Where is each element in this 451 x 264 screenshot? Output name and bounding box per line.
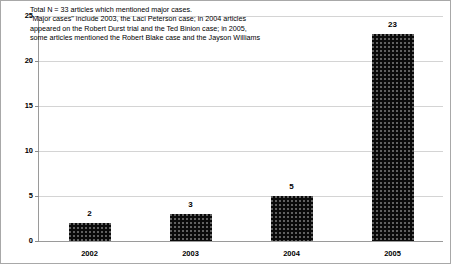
bar-value-label: 2 bbox=[87, 210, 91, 218]
annotation-line: "Major cases" include 2003, the Laci Pet… bbox=[30, 14, 260, 23]
bar[interactable] bbox=[372, 34, 414, 241]
y-axis-tick-label: 5 bbox=[29, 192, 33, 200]
bar[interactable] bbox=[271, 196, 313, 241]
chart-annotation: Total N = 33 articles which mentioned ma… bbox=[30, 5, 260, 43]
bar-value-label: 3 bbox=[188, 201, 192, 209]
bar-slot: 2 bbox=[39, 16, 140, 241]
annotation-line: some articles mentioned the Robert Blake… bbox=[30, 33, 260, 42]
bar-value-label: 5 bbox=[289, 183, 293, 191]
y-axis-tick-label: 20 bbox=[25, 57, 33, 65]
y-axis-tick-mark bbox=[35, 241, 39, 242]
x-axis-tick-label: 2005 bbox=[384, 250, 401, 258]
bar[interactable] bbox=[170, 214, 212, 241]
bar[interactable] bbox=[69, 223, 111, 241]
bar-slot: 23 bbox=[342, 16, 443, 241]
x-axis-tick-label: 2003 bbox=[182, 250, 199, 258]
y-axis-tick-label: 0 bbox=[29, 237, 33, 245]
y-axis-tick-label: 10 bbox=[25, 147, 33, 155]
plot-area: 0510152025 23523 2002200320042005 bbox=[38, 16, 443, 242]
bar-value-label: 23 bbox=[388, 21, 397, 29]
bar-slot: 3 bbox=[140, 16, 241, 241]
x-axis-tick-label: 2002 bbox=[81, 250, 98, 258]
annotation-line: appeared on the Robert Durst trial and t… bbox=[30, 24, 260, 33]
y-axis-tick-label: 15 bbox=[25, 102, 33, 110]
bar-chart: 0510152025 23523 2002200320042005 Total … bbox=[0, 0, 451, 264]
x-axis-tick-label: 2004 bbox=[283, 250, 300, 258]
bar-slot: 5 bbox=[241, 16, 342, 241]
annotation-line: Total N = 33 articles which mentioned ma… bbox=[30, 5, 260, 14]
